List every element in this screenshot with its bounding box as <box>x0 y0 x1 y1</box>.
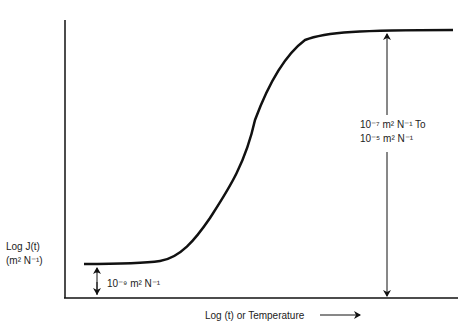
chart-canvas <box>0 0 475 334</box>
glassy-compliance-annotation: 10⁻⁹ m² N⁻¹ <box>107 277 160 290</box>
rubbery-compliance-annotation-line2: 10⁻⁵ m² N⁻¹ <box>360 132 413 145</box>
x-axis-label: Log (t) or Temperature <box>205 309 304 322</box>
y-axis-label-line1: Log J(t) <box>6 240 40 253</box>
y-axis-label-line2: (m² N⁻¹) <box>6 254 43 267</box>
compliance-curve <box>84 30 453 264</box>
rubbery-compliance-annotation-line1: 10⁻⁷ m² N⁻¹ To <box>360 118 426 131</box>
